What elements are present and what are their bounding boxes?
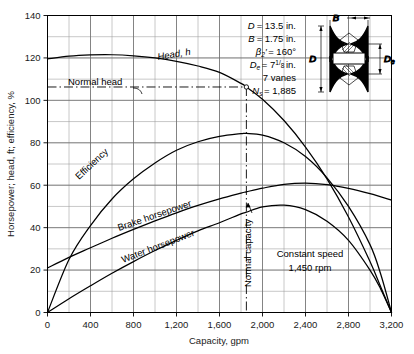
y-axis-title: Horsepower; head, ft; efficiency, % (5, 90, 16, 236)
impeller-hub (333, 53, 365, 64)
x-tick-label: 800 (126, 319, 142, 330)
x-tick-label: 400 (83, 319, 99, 330)
spec-diameter-symbol: D (248, 20, 255, 31)
spec-beta-value: = 160° (268, 46, 296, 57)
x-axis-ticks: 04008001,2001,6002,0002,4002,8003,200 (45, 313, 404, 330)
impeller-label-D: D (309, 53, 316, 64)
chart-canvas: 04008001,2001,6002,0002,4002,8003,200 02… (0, 0, 414, 354)
y-tick-label: 140 (25, 10, 41, 21)
x-tick-label: 3,200 (380, 319, 404, 330)
spec-eye-unit: in. (286, 59, 296, 70)
spec-eye-frac-den: 8 (281, 62, 285, 69)
y-tick-label: 120 (25, 52, 41, 63)
impeller-diagram: D De B (309, 12, 395, 92)
x-tick-label: 2,000 (251, 319, 275, 330)
pump-performance-chart: 04008001,2001,6002,0002,4002,8003,200 02… (0, 0, 414, 354)
constant-speed-line2: 1,450 rpm (289, 262, 332, 273)
spec-vanes: 7 vanes (263, 72, 297, 83)
x-tick-label: 1,200 (165, 319, 189, 330)
spec-width-symbol: B (248, 33, 255, 44)
impeller-label-B: B (333, 12, 340, 23)
x-axis-title: Capacity, gpm (189, 335, 249, 346)
spec-eye-diameter: De= 71/8in. (250, 59, 296, 72)
spec-width-value: = 1.75 in. (257, 33, 296, 44)
curve-label-efficiency: Efficiency (73, 146, 110, 182)
normal-capacity-label: Normal capacity (242, 219, 253, 287)
y-tick-label: 20 (30, 264, 41, 275)
spec-diameter: D= 13.5 in. (248, 20, 296, 31)
y-axis-ticks: 020406080100120140 (25, 10, 48, 318)
spec-eye-value: = 7 (262, 59, 275, 70)
y-tick-label: 100 (25, 95, 41, 106)
normal-head-label: Normal head (68, 76, 122, 87)
spec-width: B= 1.75 in. (248, 33, 296, 44)
operating-point-marker (244, 85, 248, 89)
y-tick-label: 0 (35, 307, 40, 318)
spec-diameter-value: = 13.5 in. (257, 20, 296, 31)
normal-head-leader-line (133, 88, 142, 94)
curve-label-water-horsepower: Water horsepower (120, 227, 196, 265)
x-tick-label: 1,600 (208, 319, 232, 330)
x-tick-label: 2,800 (337, 319, 361, 330)
impeller-spec-list: D= 13.5 in. B= 1.75 in. β2′= 160° De= 71… (248, 20, 296, 97)
spec-beta: β2′= 160° (255, 46, 296, 58)
x-tick-label: 0 (45, 319, 50, 330)
curve-label-head: Head, h (157, 46, 192, 62)
spec-ns-value: = 1,885 (264, 85, 296, 96)
spec-eye-sub: e (257, 64, 261, 71)
x-tick-label: 2,400 (294, 319, 318, 330)
spec-specific-speed: Ns= 1,885 (252, 85, 296, 97)
impeller-label-De: De (384, 53, 395, 65)
y-tick-label: 80 (30, 137, 41, 148)
constant-speed-line1: Constant speed (277, 248, 344, 259)
y-tick-label: 60 (30, 180, 41, 191)
y-tick-label: 40 (30, 222, 41, 233)
